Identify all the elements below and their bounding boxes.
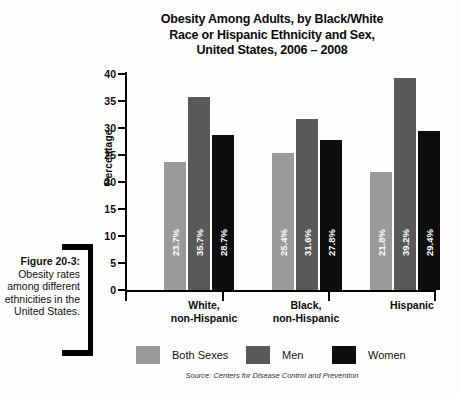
bar-value-label: 39.2% xyxy=(400,229,411,256)
bar: 25.4% xyxy=(272,153,294,290)
category-label-line: non-Hispanic xyxy=(256,312,356,325)
y-axis-tick-label: 40 xyxy=(98,68,116,80)
y-axis-tick xyxy=(118,73,126,75)
caption-rule-decoration xyxy=(88,244,93,356)
bar-value-label: 25.4% xyxy=(278,229,289,256)
x-axis-line xyxy=(125,290,436,292)
bar: 35.7% xyxy=(188,97,210,290)
chart-panel: Obesity Among Adults, by Black/White Rac… xyxy=(96,0,459,394)
chart-title-line-3: United States, 2006 – 2008 xyxy=(96,43,448,59)
x-axis-end-tick-left xyxy=(125,292,127,301)
legend-swatch xyxy=(246,346,270,364)
y-axis-tick xyxy=(118,100,126,102)
category-label-line: Hispanic xyxy=(362,299,459,312)
y-axis-tick-label: 20 xyxy=(98,176,116,188)
legend-item[interactable]: Both Sexes xyxy=(136,345,228,365)
category-label-line: Black, xyxy=(256,299,356,312)
figure-caption-text: Figure 20-3: Obesity rates among differe… xyxy=(0,255,80,318)
legend-label: Women xyxy=(368,349,406,361)
y-axis-tick xyxy=(118,127,126,129)
figure-caption-body: Obesity rates among different ethnicitie… xyxy=(0,268,80,318)
y-axis-tick xyxy=(118,208,126,210)
x-axis-category-label: White,non-Hispanic xyxy=(154,299,254,324)
y-axis-tick-label: 5 xyxy=(98,257,116,269)
chart-title: Obesity Among Adults, by Black/White Rac… xyxy=(96,12,448,59)
y-axis-tick xyxy=(118,181,126,183)
y-axis-tick-label: 25 xyxy=(98,149,116,161)
y-axis-tick-labels: 0510152025303540 xyxy=(96,0,116,394)
x-axis-category-label: Black,non-Hispanic xyxy=(256,299,356,324)
y-axis-tick-label: 0 xyxy=(98,284,116,296)
bar-value-label: 31.6% xyxy=(302,229,313,256)
legend-label: Men xyxy=(282,349,303,361)
bar: 39.2% xyxy=(394,78,416,290)
category-label-line: White, xyxy=(154,299,254,312)
bar-value-label: 23.7% xyxy=(170,229,181,256)
y-axis-tick-label: 35 xyxy=(98,95,116,107)
bar-value-label: 27.8% xyxy=(326,229,337,256)
bar-value-label: 35.7% xyxy=(194,229,205,256)
y-axis-tick xyxy=(118,154,126,156)
plot-area: 23.7%35.7%28.7%25.4%31.6%27.8%21.8%39.2%… xyxy=(126,74,436,290)
bar: 28.7% xyxy=(212,135,234,290)
figure-number-label: Figure 20-3: xyxy=(0,255,80,268)
chart-legend: Both SexesMenWomen xyxy=(136,345,456,367)
bar-value-label: 21.8% xyxy=(376,229,387,256)
bar: 31.6% xyxy=(296,119,318,290)
bar-value-label: 28.7% xyxy=(218,229,229,256)
legend-label: Both Sexes xyxy=(172,349,228,361)
legend-swatch xyxy=(332,346,356,364)
chart-title-line-1: Obesity Among Adults, by Black/White xyxy=(96,12,448,28)
bar: 21.8% xyxy=(370,172,392,290)
category-label-line: non-Hispanic xyxy=(154,312,254,325)
chart-source-note: Source: Centers for Disease Control and … xyxy=(96,371,448,380)
y-axis-tick-label: 30 xyxy=(98,122,116,134)
legend-item[interactable]: Men xyxy=(246,345,303,365)
bar-value-label: 29.4% xyxy=(424,229,435,256)
legend-item[interactable]: Women xyxy=(332,345,406,365)
y-axis-tick xyxy=(118,235,126,237)
y-axis-tick-label: 15 xyxy=(98,203,116,215)
chart-title-line-2: Race or Hispanic Ethnicity and Sex, xyxy=(96,28,448,44)
bar: 27.8% xyxy=(320,140,342,290)
legend-swatch xyxy=(136,346,160,364)
y-axis-tick-label: 10 xyxy=(98,230,116,242)
bar: 23.7% xyxy=(164,162,186,290)
figure-caption-block: Figure 20-3: Obesity rates among differe… xyxy=(0,244,96,360)
y-axis-tick xyxy=(118,289,126,291)
y-axis-tick xyxy=(118,262,126,264)
x-axis-category-label: Hispanic xyxy=(362,299,459,312)
bar: 29.4% xyxy=(418,131,440,290)
